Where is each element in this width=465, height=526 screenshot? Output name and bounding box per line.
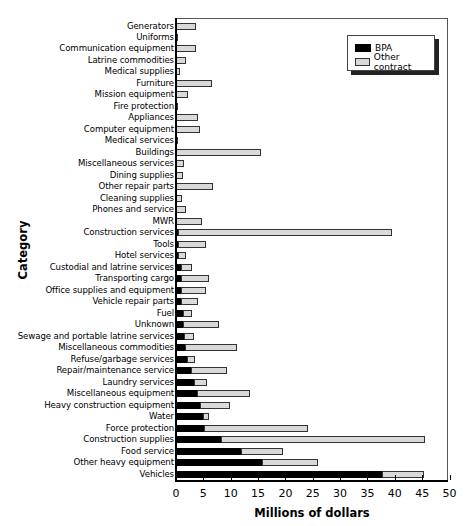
category-label: Tools bbox=[153, 239, 174, 250]
x-tick bbox=[422, 475, 423, 480]
bar-other-contract bbox=[185, 344, 237, 351]
x-tick-label: 20 bbox=[275, 487, 295, 500]
bar-bpa bbox=[176, 436, 221, 443]
legend-label: Other contract bbox=[374, 52, 434, 72]
bar-bpa bbox=[176, 379, 194, 386]
category-label: Vehicles bbox=[140, 469, 174, 480]
bar-other-contract bbox=[176, 172, 183, 179]
bar-bpa bbox=[176, 471, 382, 478]
x-tick bbox=[203, 475, 204, 480]
legend: BPA Other contract bbox=[347, 35, 435, 71]
x-tick bbox=[340, 475, 341, 480]
category-label: Sewage and portable latrine services bbox=[18, 331, 174, 342]
bar-other-contract bbox=[203, 413, 210, 420]
category-label: Heavy construction equipment bbox=[44, 400, 174, 411]
x-tick bbox=[285, 475, 286, 480]
category-label: Miscellaneous equipment bbox=[67, 388, 174, 399]
bar-other-contract bbox=[183, 310, 193, 317]
x-tick-label: 30 bbox=[330, 487, 350, 500]
bar-other-contract bbox=[184, 333, 194, 340]
category-label: Medical services bbox=[105, 135, 174, 146]
bar-other-contract bbox=[204, 425, 308, 432]
bar-other-contract bbox=[176, 23, 196, 30]
bar-other-contract bbox=[191, 367, 227, 374]
x-tick-label: 35 bbox=[357, 487, 377, 500]
bar-other-contract bbox=[181, 275, 209, 282]
x-tick bbox=[395, 475, 396, 480]
category-label: Latrine commodities bbox=[88, 55, 174, 66]
bar-other-contract bbox=[176, 91, 188, 98]
legend-item-other-contract: Other contract bbox=[355, 56, 434, 67]
category-label: Computer equipment bbox=[84, 124, 174, 135]
x-tick bbox=[258, 475, 259, 480]
category-label: Other heavy equipment bbox=[74, 457, 174, 468]
bar-bpa bbox=[176, 333, 184, 340]
bar-bpa bbox=[176, 425, 204, 432]
y-axis-title: Category bbox=[16, 221, 30, 280]
category-label: Office supplies and equipment bbox=[45, 285, 174, 296]
category-label: Buildings bbox=[136, 147, 174, 158]
stacked-bar-chart: GeneratorsUniformsCommunication equipmen… bbox=[0, 0, 465, 526]
category-label: Vehicle repair parts bbox=[92, 296, 174, 307]
bar-other-contract bbox=[187, 356, 195, 363]
x-tick-label: 50 bbox=[440, 487, 460, 500]
bar-bpa bbox=[176, 413, 203, 420]
bar-other-contract bbox=[221, 436, 426, 443]
category-label: Uniforms bbox=[136, 32, 174, 43]
category-label: Mission equipment bbox=[95, 89, 174, 100]
bar-other-contract bbox=[178, 252, 186, 259]
category-label: Food service bbox=[121, 446, 174, 457]
x-tick-label: 5 bbox=[193, 487, 213, 500]
bar-other-contract bbox=[176, 45, 196, 52]
x-tick-label: 25 bbox=[303, 487, 323, 500]
bar-other-contract bbox=[181, 287, 206, 294]
bar-other-contract bbox=[181, 264, 192, 271]
bar-other-contract bbox=[194, 379, 207, 386]
bar-bpa bbox=[176, 356, 187, 363]
x-tick-label: 10 bbox=[221, 487, 241, 500]
bar-other-contract bbox=[176, 114, 198, 121]
x-tick-label: 45 bbox=[412, 487, 432, 500]
category-label: Phones and service bbox=[92, 204, 174, 215]
bar-other-contract bbox=[200, 402, 231, 409]
bar-other-contract bbox=[178, 229, 392, 236]
category-label: MWR bbox=[152, 216, 174, 227]
x-tick bbox=[450, 475, 451, 480]
category-label: Laundry services bbox=[103, 377, 174, 388]
bar-bpa bbox=[176, 402, 200, 409]
bar-bpa bbox=[176, 367, 191, 374]
category-label: Generators bbox=[127, 21, 174, 32]
bar-other-contract bbox=[241, 448, 283, 455]
bar-bpa bbox=[176, 344, 185, 351]
bar-other-contract bbox=[176, 80, 212, 87]
category-label: Unknown bbox=[135, 319, 174, 330]
legend-swatch-other bbox=[355, 58, 370, 66]
bar-other-contract bbox=[176, 149, 261, 156]
x-tick-label: 40 bbox=[385, 487, 405, 500]
legend-swatch-bpa bbox=[355, 44, 371, 52]
x-tick bbox=[176, 475, 177, 480]
plot-area bbox=[176, 18, 448, 481]
bar-other-contract bbox=[176, 183, 213, 190]
x-tick-label: 15 bbox=[248, 487, 268, 500]
x-tick bbox=[231, 475, 232, 480]
bar-other-contract bbox=[178, 241, 205, 248]
category-label: Repair/maintenance service bbox=[56, 365, 174, 376]
category-label: Force protection bbox=[106, 423, 174, 434]
category-label: Construction services bbox=[83, 227, 174, 238]
x-tick bbox=[367, 475, 368, 480]
category-label: Miscellaneous services bbox=[78, 158, 174, 169]
category-label: Communication equipment bbox=[59, 43, 174, 54]
category-label: Furniture bbox=[136, 78, 174, 89]
bar-other-contract bbox=[197, 390, 251, 397]
bar-other-contract bbox=[181, 298, 198, 305]
category-label: Fuel bbox=[157, 308, 174, 319]
bar-bpa bbox=[176, 459, 262, 466]
y-axis-line bbox=[175, 18, 177, 482]
category-label: Fire protection bbox=[114, 101, 174, 112]
category-label: Transporting cargo bbox=[95, 273, 174, 284]
bar-bpa bbox=[176, 448, 241, 455]
category-label: Water bbox=[149, 411, 174, 422]
bar-other-contract bbox=[262, 459, 317, 466]
category-label: Cleaning supplies bbox=[100, 193, 174, 204]
